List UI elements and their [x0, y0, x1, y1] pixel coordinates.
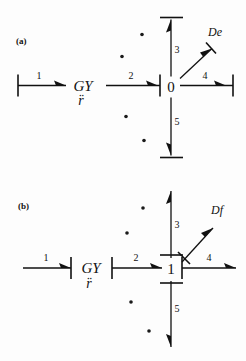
- bond-1: 1: [18, 70, 66, 97]
- bond-4-half-arrow: [224, 263, 236, 268]
- speck-dot: [129, 300, 133, 304]
- detector-de: De: [180, 25, 223, 79]
- bond-1-number: 1: [37, 70, 42, 81]
- detector-df: Df: [178, 203, 225, 264]
- bond-2: 2: [112, 252, 162, 279]
- bond-5-number: 5: [175, 116, 180, 127]
- bond-2: 2: [106, 70, 160, 97]
- df-label: Df: [210, 203, 225, 217]
- bond-1: 1: [23, 252, 71, 279]
- gyrator-modulus: r̈: [86, 276, 92, 291]
- bond-5-number: 5: [175, 303, 180, 314]
- df-half-arrow: [201, 228, 213, 237]
- bond-4-number: 4: [207, 252, 212, 263]
- bond-2-half-arrow: [146, 81, 158, 86]
- bond-4-half-arrow: [214, 81, 226, 86]
- bond-5: 5: [160, 281, 183, 347]
- bond-5: 5: [160, 98, 183, 158]
- speck-dot: [140, 33, 144, 37]
- bond-4: 4: [182, 252, 236, 279]
- bond-3-half-arrow: [166, 20, 171, 33]
- speck-dot: [120, 55, 124, 59]
- bond-3: 3: [160, 191, 183, 258]
- gyrator-element-b: GY r̈: [81, 260, 102, 291]
- junction-0-label: 0: [167, 79, 175, 95]
- df-causal-stroke: [178, 252, 190, 264]
- panel-a: (a) 1 GY r̈ 2: [0, 0, 246, 180]
- bond-2-half-arrow: [150, 263, 162, 268]
- bond-4-number: 4: [203, 70, 208, 81]
- bond-3-half-arrow: [166, 191, 171, 204]
- bond-1-number: 1: [44, 252, 49, 263]
- speck-dot: [125, 231, 129, 235]
- bond-1-half-arrow: [59, 263, 71, 268]
- bond-1-half-arrow: [54, 81, 66, 86]
- bond-3-number: 3: [175, 219, 180, 230]
- de-label: De: [207, 25, 223, 39]
- panel-b-graph: 1 GY r̈ 2 1 3: [0, 180, 246, 361]
- speck-dot: [124, 115, 128, 119]
- panel-b: (b) 1 GY r̈ 2: [0, 180, 246, 361]
- gyrator-modulus: r̈: [78, 93, 84, 108]
- speck-dot: [142, 139, 146, 143]
- bond-3-number: 3: [175, 44, 180, 55]
- bond-2-number: 2: [129, 70, 134, 81]
- bond-4: 4: [180, 70, 233, 97]
- panel-a-graph: 1 GY r̈ 2 0 3: [0, 0, 246, 181]
- gyrator-label: GY: [81, 260, 102, 276]
- figure-canvas: (a) 1 GY r̈ 2: [0, 0, 246, 361]
- de-half-arrow: [200, 49, 212, 57]
- speck-dot: [141, 206, 145, 210]
- gyrator-label: GY: [73, 78, 94, 94]
- bond-2-number: 2: [134, 252, 139, 263]
- bond-5-half-arrow: [166, 334, 171, 347]
- junction-1-label: 1: [167, 261, 175, 277]
- bond-3: 3: [160, 18, 183, 77]
- speck-dot: [147, 329, 151, 333]
- gyrator-element-a: GY r̈: [73, 78, 94, 108]
- bond-5-half-arrow: [166, 143, 171, 156]
